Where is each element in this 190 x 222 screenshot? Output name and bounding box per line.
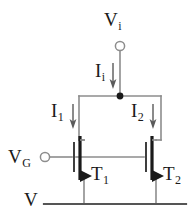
- label-supply-rail-sub: [38, 199, 39, 213]
- label-gate-voltage-sub: G: [22, 156, 31, 170]
- label-current-left: I1: [51, 101, 64, 123]
- label-gate-voltage-base: V: [8, 146, 22, 167]
- input-junction-dot: [117, 93, 124, 100]
- label-supply-rail-base: V: [24, 189, 38, 210]
- ii-current-arrow: [110, 63, 117, 89]
- label-input-voltage-sub: i: [118, 19, 122, 33]
- label-input-voltage-base: V: [104, 9, 118, 30]
- label-transistor-left-base: T: [91, 163, 103, 184]
- vg-terminal-circle: [40, 152, 49, 161]
- label-current-left-sub: 1: [57, 110, 64, 124]
- label-transistor-right-base: T: [163, 163, 175, 184]
- label-input-current: Ii: [95, 61, 105, 83]
- mosfet-t2-symbol: [146, 136, 164, 182]
- label-input-current-sub: i: [101, 70, 105, 84]
- i1-current-arrow: [70, 104, 77, 129]
- mosfet-current-mirror-diagram: Vi Ii I1 I2 VG T1 T2 V: [0, 0, 190, 222]
- vi-terminal-circle: [115, 41, 124, 50]
- label-transistor-right-sub: 2: [175, 173, 182, 187]
- label-transistor-left-sub: 1: [103, 173, 110, 187]
- i2-current-arrow: [150, 104, 157, 129]
- label-current-right: I2: [131, 101, 144, 123]
- label-gate-voltage: VG: [8, 147, 31, 169]
- mosfet-t1-symbol: [74, 136, 92, 182]
- label-input-voltage: Vi: [104, 10, 122, 32]
- label-transistor-right: T2: [163, 164, 181, 186]
- label-current-right-sub: 2: [137, 110, 144, 124]
- label-transistor-left: T1: [91, 164, 109, 186]
- label-supply-rail: V: [24, 190, 38, 212]
